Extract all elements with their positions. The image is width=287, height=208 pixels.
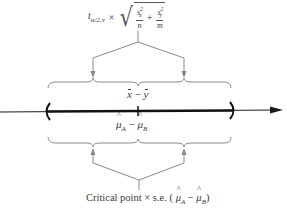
confidence-interval-diagram [0, 0, 287, 208]
sample-mean-difference-label: x − y [127, 88, 149, 100]
square-root: √ s2x n + s2y m [118, 4, 165, 30]
denominator-1: n [137, 21, 141, 30]
minus: − [132, 88, 144, 100]
t-subscript: α/2,ν [91, 16, 105, 24]
y-bar: y [144, 88, 149, 100]
times-symbol: × [109, 12, 115, 23]
radical-sign: √ [120, 4, 133, 30]
label-prefix: Critical point × s.e. ( [86, 192, 173, 203]
mu-symbol: μ [138, 118, 144, 130]
bottom-brace [48, 137, 231, 147]
top-arrowheads [91, 71, 187, 78]
mu-hat-a: μA [176, 192, 186, 203]
fraction-sx2-over-n: s2x n [136, 5, 143, 30]
top-connector [93, 31, 184, 76]
radicand: s2x n + s2y m [134, 2, 165, 30]
denominator-2: m [157, 21, 163, 30]
mu-symbol: μ [116, 118, 122, 130]
mu-hat-b: μB [196, 192, 206, 203]
subscript-b: B [143, 125, 147, 133]
minus: − [126, 118, 138, 130]
parameter-difference-label: μA − μB [116, 118, 147, 133]
sub: x [139, 12, 142, 18]
number-line-arrowhead [270, 107, 283, 114]
numerator-2: s2y [156, 5, 163, 21]
label-suffix: ) [206, 192, 210, 203]
mu-symbol: μ [196, 192, 201, 203]
sub: y [160, 12, 163, 18]
t-critical-value: tα/2,ν [88, 10, 105, 24]
mu-symbol: μ [176, 192, 181, 203]
mu-hat-a: μ [116, 118, 122, 130]
margin-of-error-formula: tα/2,ν × √ s2x n + s2y m [88, 4, 165, 30]
bottom-connector [93, 150, 184, 190]
critical-point-se-label: Critical point × s.e. ( μA − μB) [86, 192, 209, 206]
mu-hat-b: μ [138, 118, 144, 130]
minus: − [185, 192, 196, 203]
bottom-arrowheads [91, 148, 187, 155]
plus-symbol: + [147, 12, 153, 23]
x-bar: x [127, 88, 132, 100]
numerator-1: s2x [136, 5, 143, 21]
fraction-sy2-over-m: s2y m [156, 5, 163, 30]
top-brace [48, 78, 231, 88]
